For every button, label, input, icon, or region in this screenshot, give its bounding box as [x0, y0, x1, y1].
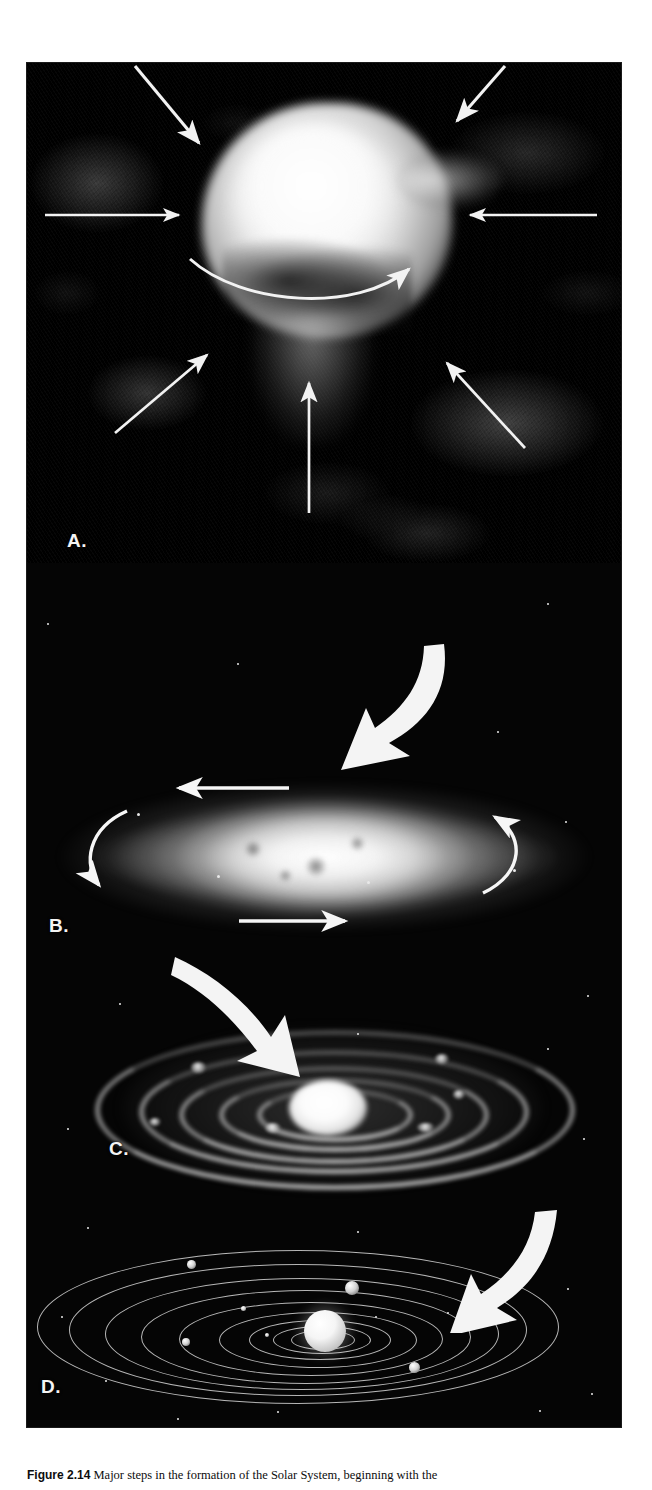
planet-inner-small	[265, 1333, 269, 1337]
background-star	[61, 1316, 63, 1318]
background-star	[547, 603, 549, 605]
planet-large-right	[345, 1281, 359, 1295]
background-star	[87, 1227, 89, 1229]
background-star	[587, 995, 589, 997]
panel-a-collapsing-cloud: A.	[27, 63, 621, 563]
background-star	[177, 1418, 179, 1420]
planet-inner	[241, 1306, 246, 1311]
transition-arrow-a-to-b	[327, 638, 477, 773]
planetesimal-clump	[149, 1118, 161, 1126]
panel-label-a: A.	[67, 530, 87, 552]
transition-arrow-b-to-c	[167, 953, 317, 1078]
panel-c-protoplanetary-rings: C.	[27, 1018, 621, 1203]
figure-number: Figure 2.14	[27, 1468, 90, 1482]
planetesimal-clump	[453, 1090, 465, 1099]
transition-arrow-c-to-d	[427, 1208, 577, 1333]
figure-caption: Figure 2.14 Major steps in the formation…	[27, 1468, 625, 1490]
background-star	[277, 1411, 279, 1413]
rotation-arrow-left	[90, 811, 127, 885]
panel-b-arrow-layer	[27, 773, 621, 958]
background-star	[539, 1410, 541, 1412]
infall-arrow-bottom-right	[447, 363, 525, 448]
protosun-core	[289, 1080, 367, 1136]
planetesimal-clump	[435, 1054, 449, 1064]
background-star	[67, 1128, 69, 1130]
rotation-arc-arrow	[190, 259, 409, 298]
background-star	[119, 1003, 121, 1005]
figure-caption-text: Major steps in the formation of the Sola…	[93, 1468, 437, 1482]
figure-page: A.	[0, 0, 652, 1490]
panel-b-rotating-disk: B.	[27, 773, 621, 958]
infall-arrow-top-right	[457, 66, 505, 121]
background-star	[357, 1231, 359, 1233]
background-star	[375, 1316, 377, 1318]
infall-arrow-top-left	[135, 66, 199, 143]
panel-label-b: B.	[49, 915, 69, 937]
infall-arrow-bottom-left	[115, 355, 207, 433]
planet-outer-upper	[187, 1260, 196, 1269]
background-star	[547, 1048, 549, 1050]
panel-label-d: D.	[41, 1376, 61, 1398]
planet-ringed-left	[182, 1338, 190, 1346]
panel-label-c: C.	[109, 1138, 129, 1160]
planetesimal-clump	[265, 1123, 281, 1133]
planetesimal-clump	[417, 1123, 435, 1132]
background-star	[497, 731, 499, 733]
background-star	[591, 1393, 593, 1395]
planet-lower-right	[409, 1362, 420, 1373]
central-star	[304, 1310, 346, 1352]
figure-plate: A.	[27, 63, 621, 1427]
panel-a-arrow-layer	[27, 63, 621, 563]
rotation-arrow-right	[483, 817, 516, 893]
background-star	[357, 1033, 359, 1035]
background-star	[47, 623, 49, 625]
background-star	[105, 1380, 107, 1382]
background-star	[237, 663, 239, 665]
background-star	[583, 1138, 585, 1140]
